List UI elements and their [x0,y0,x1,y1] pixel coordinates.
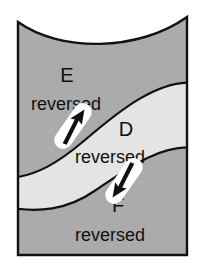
region-E-letter: E [60,64,73,86]
region-D-letter: D [119,118,133,140]
region-F-qualifier: reversed [75,225,145,245]
fault-block-diagram: E reversed D reversed F reversed [0,0,198,268]
figure-root: E reversed D reversed F reversed [0,0,198,268]
